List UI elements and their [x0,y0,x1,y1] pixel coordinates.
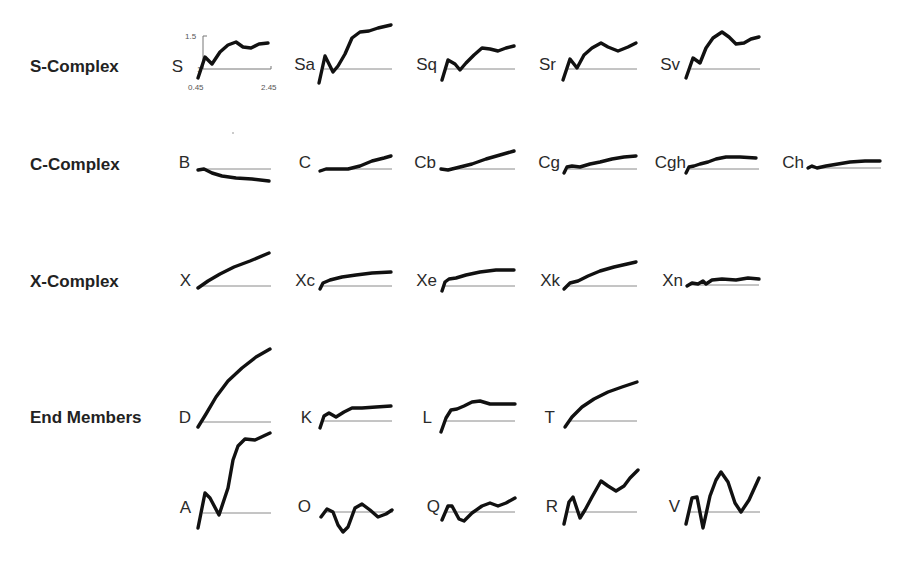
spectrum-v [686,472,760,528]
spectrum-o [321,504,393,532]
spectrum-cgh [686,157,759,173]
spectrum-xe [442,270,515,291]
spectrum-s [198,42,268,78]
spectrum-a [198,433,271,528]
x-tick-left: 0.45 [188,83,204,92]
spectrum-xn [687,278,759,286]
spectrum-xc [320,272,392,289]
spectrum-q [442,498,515,521]
spectrum-d [198,349,271,427]
spectrum-cg [564,156,637,173]
spectrum-l [441,401,515,432]
spectra-plot-area: 1.5 1 0.45 2.45 [0,0,904,562]
spectrum-c [320,156,392,171]
y-tick-top: 1.5 [185,32,197,41]
spectrum-xk [564,262,637,289]
x-tick-right: 2.45 [261,83,277,92]
spectrum-sq [442,46,515,80]
stray-dot [232,132,234,134]
spectrum-sa [319,25,392,83]
spectrum-b [198,169,271,181]
spectrum-cb [441,151,515,170]
spectrum-k [320,406,392,428]
spectrum-sv [686,32,760,78]
spectrum-t [565,382,637,427]
spectrum-ch [808,161,881,168]
spectrum-x [198,253,271,288]
spectrum-sr [563,43,637,80]
axis-frame-s: 1.5 1 0.45 2.45 [185,32,277,92]
spectrum-r [564,470,638,524]
